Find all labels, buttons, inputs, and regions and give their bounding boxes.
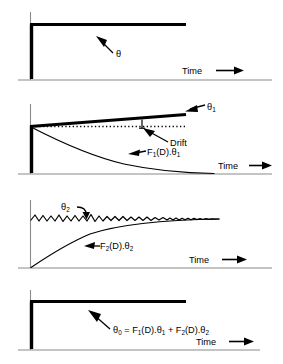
oscillating-signal-curve [31, 215, 219, 222]
theta2-callout-label: θ2 [61, 202, 70, 213]
panel-noise-component: θ2 F2(D).θ2 Time [0, 188, 283, 282]
f1-theta-sub: 1 [177, 151, 181, 158]
eq-term2-mid: (D). [185, 325, 200, 335]
time-arrow-icon [234, 67, 244, 75]
panel-output-sum: θ0 = F1(D).θ1 + F2(D).θ2 Time [0, 282, 283, 364]
eq-term1-mid: (D). [141, 325, 156, 335]
time-arrow-icon [244, 338, 254, 346]
theta2-subscript: 2 [66, 206, 70, 213]
theta1-subscript: 1 [212, 106, 216, 113]
figure-container: θ Time θ1 Drift F1(D).θ1 [0, 0, 283, 364]
time-axis-label: Time [196, 337, 216, 347]
theta1-callout-arrowhead [185, 105, 198, 112]
eq-term2-theta-sub: 2 [205, 329, 209, 336]
f1-callout-label: F1(D).θ1 [147, 147, 181, 158]
time-axis-label: Time [218, 161, 238, 171]
drift-callout-arrowhead [143, 128, 155, 137]
theta1-callout-label: θ1 [207, 102, 216, 113]
time-axis-label: Time [189, 255, 209, 265]
time-arrow-icon [237, 256, 247, 264]
time-axis-label: Time [182, 66, 202, 76]
f2-callout-label: F2(D).θ2 [100, 241, 134, 252]
eq-equals: = [122, 325, 132, 335]
panel-input-step: θ Time [0, 0, 283, 92]
eq-plus: + [165, 325, 175, 335]
panel-drift-component: θ1 Drift F1(D).θ1 Time [0, 92, 283, 188]
output-equation-label: θ0 = F1(D).θ1 + F2(D).θ2 [113, 325, 209, 336]
f1-mid: (D). [156, 147, 171, 157]
decay-response-curve [31, 127, 214, 174]
drifting-signal-curve [30, 115, 186, 127]
f2-mid: (D). [109, 241, 124, 251]
f2-theta-sub: 2 [130, 245, 134, 252]
theta-callout-label: θ [116, 49, 121, 59]
time-arrow-icon [262, 162, 272, 170]
